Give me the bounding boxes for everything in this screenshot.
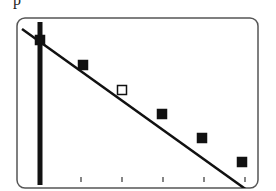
filled-square-marker bbox=[198, 134, 207, 143]
line-diagram bbox=[0, 0, 276, 191]
filled-square-marker bbox=[36, 36, 45, 45]
diagram-frame bbox=[17, 18, 258, 188]
vertical-marker-bar bbox=[38, 22, 43, 185]
filled-square-marker bbox=[238, 158, 247, 167]
filled-square-marker bbox=[158, 110, 167, 119]
open-square-marker bbox=[118, 86, 127, 95]
filled-square-marker bbox=[79, 61, 88, 70]
